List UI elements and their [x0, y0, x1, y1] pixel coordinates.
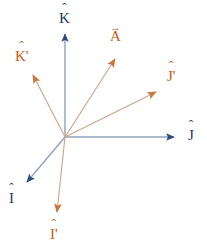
label-text-k-prime-hat: K': [15, 49, 29, 64]
label-k-hat: ˆ K: [59, 10, 70, 26]
vector-line-j-prime-hat: [65, 92, 156, 137]
label-a-vector: → A: [110, 28, 121, 44]
label-text-k-hat: K: [59, 11, 70, 26]
vector-canvas: [0, 0, 207, 249]
vector-line-i-hat: [27, 137, 65, 182]
label-i-hat: ˆ I: [9, 190, 14, 206]
label-text-j-hat: J: [188, 128, 194, 143]
label-j-hat: ˆ J: [188, 127, 194, 143]
vector-line-k-prime-hat: [33, 75, 65, 137]
label-text-j-prime-hat: J': [167, 69, 176, 84]
label-text-a-vector: A: [110, 29, 121, 44]
label-text-i-hat: I: [9, 191, 14, 206]
label-text-i-prime-hat: I': [50, 227, 58, 242]
vector-diagram: ˆ K ˆ J ˆ I → A ˆ J' ˆ K': [0, 0, 207, 249]
vector-line-a: [65, 59, 115, 137]
unprimed-frame-vectors: [27, 34, 174, 182]
vector-line-i-prime-hat: [57, 137, 65, 212]
label-j-prime-hat: ˆ J': [167, 68, 176, 84]
label-k-prime-hat: ˆ K': [15, 48, 29, 64]
label-i-prime-hat: ˆ I': [50, 226, 58, 242]
primed-frame-vectors: [33, 59, 156, 212]
